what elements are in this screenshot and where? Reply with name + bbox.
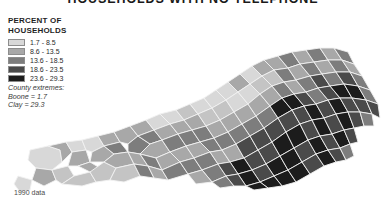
legend-title: PERCENT OF HOUSEHOLDS — [8, 16, 100, 35]
county-extremes-note: County extremes: Boone = 1.7 Clay = 29.3 — [8, 84, 64, 110]
source-note: 1990 data — [14, 189, 45, 196]
extremes-high: Clay = 29.3 — [8, 101, 64, 110]
legend-label-1: 1.7 - 8.5 — [30, 39, 56, 46]
legend-swatch-2 — [8, 48, 25, 55]
legend-label-5: 23.6 - 29.3 — [30, 75, 63, 82]
legend-item: 8.6 - 13.5 — [8, 47, 100, 56]
county — [28, 146, 62, 170]
legend-item: 18.6 - 23.5 — [8, 65, 100, 74]
legend-item: 23.6 - 29.3 — [8, 74, 100, 83]
legend-item: 13.6 - 18.5 — [8, 56, 100, 65]
map-figure: HOUSEHOLDS WITH NO TELEPHONE — [0, 0, 386, 205]
legend-label-2: 8.6 - 13.5 — [30, 48, 60, 55]
legend-swatch-5 — [8, 75, 25, 82]
legend-label-4: 18.6 - 23.5 — [30, 66, 63, 73]
legend-swatch-3 — [8, 57, 25, 64]
legend-swatch-4 — [8, 66, 25, 73]
map-legend: PERCENT OF HOUSEHOLDS 1.7 - 8.5 8.6 - 13… — [8, 16, 100, 83]
legend-label-3: 13.6 - 18.5 — [30, 57, 63, 64]
legend-swatch-1 — [8, 39, 25, 46]
legend-item: 1.7 - 8.5 — [8, 38, 100, 47]
